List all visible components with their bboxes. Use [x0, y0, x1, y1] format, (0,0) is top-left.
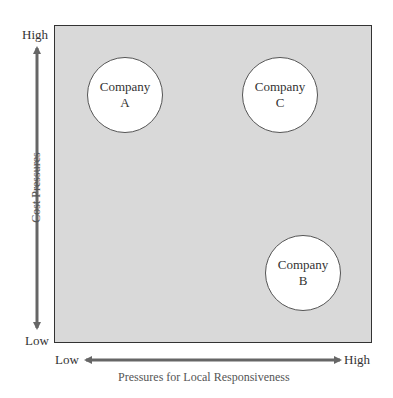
company-b-label-line1: Company [278, 257, 329, 273]
company-b-label-line2: B [299, 273, 308, 289]
company-a-circle: Company A [87, 57, 163, 133]
company-a-label-line2: A [120, 95, 129, 111]
plot-area: Company A Company C Company B [54, 25, 372, 343]
x-axis-high-label: High [344, 352, 370, 368]
y-axis-title: Cost Pressures [29, 140, 44, 236]
company-b-circle: Company B [265, 235, 341, 311]
x-axis-low-label: Low [55, 352, 79, 368]
company-c-label-line1: Company [255, 79, 306, 95]
y-axis-low-label: Low [25, 333, 49, 349]
company-c-label-line2: C [276, 95, 285, 111]
company-c-circle: Company C [242, 57, 318, 133]
company-a-label-line1: Company [100, 79, 151, 95]
y-axis-high-label: High [22, 27, 48, 43]
x-axis-title: Pressures for Local Responsiveness [118, 370, 290, 385]
